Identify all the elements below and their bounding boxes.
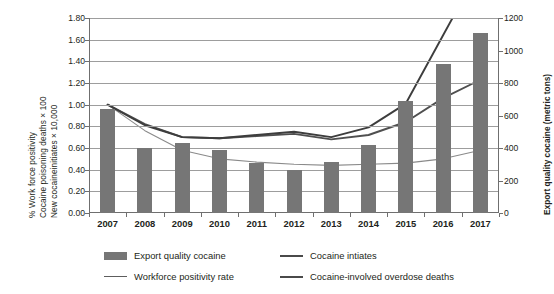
legend-label-cocaine-intiates: Cocaine intiates bbox=[310, 250, 377, 261]
axis-line-left bbox=[89, 18, 90, 213]
x-tick-mark bbox=[275, 213, 276, 217]
x-axis-tick-label: 2009 bbox=[172, 218, 193, 229]
left-axis-title-line-1: % Work force positivity bbox=[27, 132, 37, 218]
legend-item-workforce-positivity-rate: Workforce positivity rate bbox=[104, 271, 280, 282]
x-tick-mark bbox=[164, 213, 165, 217]
x-axis-tick-label: 2016 bbox=[433, 218, 454, 229]
y-axis-tick-label: 1.80 bbox=[55, 13, 89, 23]
x-tick-mark bbox=[424, 213, 425, 217]
chart-figure: % Work force positivity Cocaine poisonin… bbox=[0, 0, 554, 294]
x-axis-tick-label: 2017 bbox=[470, 218, 491, 229]
x-axis-tick-label: 2013 bbox=[321, 218, 342, 229]
bar bbox=[212, 150, 227, 213]
right-axis-title: Export quality cocaine (metric tons) bbox=[542, 74, 552, 215]
y-axis-tick-label: 0.20 bbox=[55, 186, 89, 196]
y-axis-tick-label: 1.00 bbox=[55, 100, 89, 110]
legend-item-export-quality-cocaine: Export quality cocaine bbox=[104, 250, 280, 261]
x-tick-mark bbox=[350, 213, 351, 217]
bar bbox=[137, 148, 152, 213]
x-axis-tick-label: 2008 bbox=[134, 218, 155, 229]
x-axis-tick-label: 2015 bbox=[395, 218, 416, 229]
line-series bbox=[108, 18, 481, 138]
x-tick-mark bbox=[238, 213, 239, 217]
y-axis-tick-label: 1.40 bbox=[55, 56, 89, 66]
y2-axis-tick-label: 400 bbox=[499, 143, 536, 153]
gridline bbox=[89, 40, 499, 41]
legend-label-workforce-positivity-rate: Workforce positivity rate bbox=[134, 271, 234, 282]
legend-line-swatch-icon bbox=[104, 276, 127, 277]
y2-axis-tick-label: 1200 bbox=[499, 13, 536, 23]
bar bbox=[324, 162, 339, 213]
bar bbox=[473, 33, 488, 213]
plot-area: 0.000.200.400.600.801.001.201.401.601.80… bbox=[89, 18, 499, 213]
bar bbox=[100, 109, 115, 213]
bar bbox=[287, 170, 302, 213]
chart-legend: Export quality cocaine Cocaine intiates … bbox=[104, 245, 534, 287]
x-tick-mark bbox=[126, 213, 127, 217]
bar bbox=[436, 64, 451, 214]
x-tick-mark bbox=[462, 213, 463, 217]
left-axis-title-line-2: Cocaine poisoning deaths × 100 bbox=[38, 96, 48, 218]
y2-axis-tick-label: 600 bbox=[499, 111, 536, 121]
legend-row-2: Workforce positivity rate Cocaine-involv… bbox=[104, 266, 534, 287]
x-tick-mark bbox=[387, 213, 388, 217]
y-axis-tick-label: 0.60 bbox=[55, 143, 89, 153]
x-axis-tick-label: 2012 bbox=[284, 218, 305, 229]
line-series bbox=[108, 105, 481, 166]
bar bbox=[175, 143, 190, 213]
y-axis-tick-label: 0.80 bbox=[55, 121, 89, 131]
x-tick-mark bbox=[499, 213, 500, 217]
gridline bbox=[89, 61, 499, 62]
x-axis-tick-label: 2010 bbox=[209, 218, 230, 229]
x-axis-tick-label: 2014 bbox=[358, 218, 379, 229]
legend-line-swatch-icon bbox=[280, 255, 303, 257]
x-tick-mark bbox=[201, 213, 202, 217]
x-axis-tick-label: 2007 bbox=[97, 218, 118, 229]
y2-axis-tick-label: 1000 bbox=[499, 46, 536, 56]
bar bbox=[249, 163, 264, 213]
y-axis-tick-label: 0.40 bbox=[55, 165, 89, 175]
y-axis-tick-label: 1.60 bbox=[55, 35, 89, 45]
y2-axis-tick-label: 200 bbox=[499, 176, 536, 186]
y-axis-tick-label: 0.00 bbox=[55, 208, 89, 218]
axis-line-right bbox=[498, 18, 499, 213]
legend-item-cocaine-intiates: Cocaine intiates bbox=[280, 250, 377, 261]
bar bbox=[398, 101, 413, 213]
legend-item-cocaine-involved-overdose-deaths: Cocaine-involved overdose deaths bbox=[280, 271, 454, 282]
y2-axis-tick-label: 0 bbox=[499, 208, 536, 218]
bar bbox=[361, 145, 376, 213]
y-axis-tick-label: 1.20 bbox=[55, 78, 89, 88]
x-axis-tick-label: 2011 bbox=[247, 218, 267, 229]
legend-line-swatch-icon bbox=[280, 276, 303, 278]
x-tick-mark bbox=[313, 213, 314, 217]
legend-label-cocaine-involved-overdose-deaths: Cocaine-involved overdose deaths bbox=[310, 271, 454, 282]
legend-bar-swatch-icon bbox=[104, 252, 127, 260]
gridline bbox=[89, 18, 499, 19]
y2-axis-tick-label: 800 bbox=[499, 78, 536, 88]
legend-row-1: Export quality cocaine Cocaine intiates bbox=[104, 245, 534, 266]
x-tick-mark bbox=[89, 213, 90, 217]
legend-label-export-quality-cocaine: Export quality cocaine bbox=[134, 250, 226, 261]
